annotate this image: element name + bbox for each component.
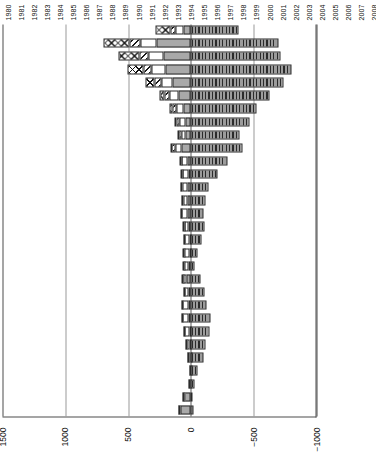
bar-group-2000 [2,143,316,152]
bar-segment-surplus-group-b-2007 [148,51,163,60]
bar-segment-surplus-group-d-2008 [103,38,129,47]
bar-segment-surplus-group-a-2004 [178,90,190,99]
bar-segment-deficit-group-1997 [190,182,207,191]
bar-group-1985 [2,339,316,348]
year-tick-1993: 1993 [174,0,181,20]
value-tick--500: −500 [248,427,258,475]
bar-group-2008 [2,38,316,47]
bar-segment-surplus-group-c-2004 [164,90,169,99]
bar-segment-surplus-group-d-1985 [185,339,187,348]
bar-segment-surplus-group-d-1991 [182,261,184,270]
year-tick-1990: 1990 [135,0,142,20]
bar-segment-surplus-group-b-2002 [179,117,185,126]
bar-group-1991 [2,261,316,270]
bar-group-1981 [2,392,316,401]
bar-group-2004 [2,90,316,99]
bar-segment-deficit-group-1998 [190,169,216,178]
bar-segment-surplus-group-d-2005 [145,77,154,86]
bar-segment-surplus-group-d-1992 [182,248,184,257]
bar-segment-deficit-group-2005 [190,77,283,86]
bar-segment-surplus-group-a-2003 [183,103,191,112]
bar-segment-surplus-group-d-1982 [188,379,190,388]
bar-group-1982 [2,379,316,388]
year-tick-1981: 1981 [17,0,24,20]
bar-segment-surplus-group-b-2000 [175,143,181,152]
bar-segment-surplus-group-a-1990 [186,274,190,283]
bar-segment-surplus-group-c-2007 [139,51,148,60]
bar-segment-surplus-group-a-1996 [187,195,191,204]
bar-segment-deficit-group-1995 [190,208,203,217]
value-tick-500: 500 [122,427,132,475]
value-tick-0: 0 [185,427,195,475]
bar-segment-deficit-group-1981 [190,392,192,401]
bar-segment-surplus-group-d-1981 [182,392,184,401]
figure-page: 150010005000−500−10001980198119821983198… [0,0,376,475]
bar-segment-surplus-group-d-1989 [183,287,185,296]
year-tick-2008: 2008 [370,0,376,20]
bar-group-1988 [2,300,316,309]
bar-segment-deficit-group-2003 [190,103,255,112]
bar-segment-surplus-group-a-2001 [185,130,190,139]
bar-segment-deficit-group-1982 [190,379,194,388]
year-tick-1996: 1996 [213,0,220,20]
bar-group-2003 [2,103,316,112]
bar-segment-deficit-group-1984 [190,352,203,361]
bar-segment-surplus-group-d-1997 [180,182,182,191]
figure-caption: Figure 7.7 Current account imbalances 19… [361,469,372,475]
bar-group-1986 [2,326,316,335]
bar-segment-deficit-group-1980 [190,405,193,414]
bar-segment-deficit-group-1986 [190,326,208,335]
bar-segment-surplus-group-d-2000 [170,143,172,152]
year-tick-1998: 1998 [239,0,246,20]
year-tick-2003: 2003 [305,0,312,20]
bar-segment-surplus-group-b-2006 [151,64,165,73]
bar-segment-surplus-group-a-1980 [180,405,191,414]
bar-group-1993 [2,234,316,243]
year-tick-2002: 2002 [292,0,299,20]
bar-segment-surplus-group-c-2005 [154,77,161,86]
year-tick-1988: 1988 [108,0,115,20]
year-tick-2004: 2004 [318,0,325,20]
year-tick-2001: 2001 [279,0,286,20]
bar-group-1989 [2,287,316,296]
value-tick--1000: −1000 [311,427,321,475]
chart: 150010005000−500−10001980198119821983198… [0,0,376,475]
bar-segment-surplus-group-d-1987 [181,313,183,322]
bar-segment-deficit-group-1993 [190,234,200,243]
bar-group-2007 [2,51,316,60]
bar-segment-surplus-group-b-2008 [140,38,156,47]
bar-group-1994 [2,221,316,230]
bar-segment-surplus-group-c-2006 [143,64,152,73]
bar-segment-surplus-group-d-2002 [174,117,176,126]
bar-segment-deficit-group-1999 [190,156,227,165]
bar-group-1995 [2,208,316,217]
value-tick-1000: 1000 [59,427,69,475]
bar-segment-surplus-group-d-1994 [182,221,184,230]
bar-segment-surplus-group-c-2008 [129,38,139,47]
bar-group-2005 [2,77,316,86]
plot-area [2,24,316,417]
bar-group-1983 [2,365,316,374]
bar-group-1984 [2,352,316,361]
bar-group-1980 [2,405,316,414]
year-tick-1982: 1982 [30,0,37,20]
bar-segment-surplus-group-d-1999 [179,156,181,165]
bar-segment-deficit-group-1985 [190,339,205,348]
year-tick-2005: 2005 [331,0,338,20]
bar-segment-surplus-group-d-2001 [177,130,179,139]
bar-segment-deficit-group-1996 [190,195,205,204]
bar-segment-surplus-group-a-2002 [185,117,191,126]
year-tick-2006: 2006 [344,0,351,20]
bar-segment-deficit-group-2007 [190,51,280,60]
bar-group-1990 [2,274,316,283]
bar-segment-surplus-group-a-2007 [163,51,190,60]
bar-segment-surplus-group-b-2001 [181,130,186,139]
value-tick-1500: 1500 [0,427,7,475]
year-tick-1999: 1999 [252,0,259,20]
bar-segment-deficit-group-2009 [190,25,238,34]
year-tick-1995: 1995 [200,0,207,20]
bar-segment-surplus-group-c-2003 [172,103,176,112]
bar-segment-deficit-group-2004 [190,90,269,99]
bar-segment-surplus-group-a-2009 [183,25,190,34]
bar-segment-surplus-group-d-2003 [169,103,172,112]
